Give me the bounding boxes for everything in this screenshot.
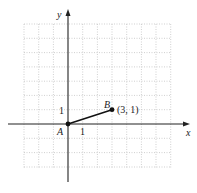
point-a-label: A: [56, 126, 64, 137]
grid: [24, 24, 171, 168]
x-tick-label: 1: [80, 126, 85, 137]
point-a: [66, 122, 71, 127]
coordinate-plane: y x 1 1 A B (3, 1): [0, 0, 197, 193]
y-axis-label: y: [56, 9, 62, 20]
x-axis-label: x: [185, 127, 191, 138]
point-b: [110, 107, 115, 112]
y-tick-label: 1: [59, 105, 64, 116]
segment-ab: [68, 110, 112, 124]
x-axis-arrow-icon: [183, 122, 190, 127]
point-b-coords: (3, 1): [117, 104, 139, 116]
y-axis-arrow-icon: [66, 9, 71, 16]
point-b-label: B: [104, 99, 110, 110]
axes: [8, 12, 186, 182]
